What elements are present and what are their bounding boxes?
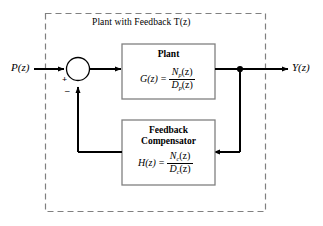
input-label: P(z) [11,62,29,73]
plant-denominator: Dp(z) [169,80,194,92]
plant-lhs: G(z) [140,74,158,84]
summing-junction-plus-sign: + [62,75,67,84]
compensator-numerator: Nc(z) [168,151,193,163]
plant-equals: = [161,74,167,84]
diagram-graphics [0,0,323,226]
compensator-denominator: Dc(z) [167,164,192,176]
compensator-lhs: H(z) [138,158,156,168]
plant-transfer-function: G(z) = Np(z) Dp(z) [140,67,195,91]
compensator-equals: = [159,158,165,168]
compensator-transfer-function: H(z) = Nc(z) Dc(z) [138,151,193,175]
compensator-fraction: Nc(z) Dc(z) [167,151,192,175]
plant-numerator: Np(z) [170,67,195,79]
summing-junction [67,58,90,81]
compensator-block-title-line2: Compensator [122,137,215,147]
output-label: Y(z) [292,62,310,73]
plant-fraction: Np(z) Dp(z) [169,67,194,91]
compensator-block-title-line1: Feedback [122,126,215,136]
plant-block-title: Plant [122,50,215,60]
block-diagram-figure: Plant with Feedback T(z) P(z) Y(z) + – P… [0,0,323,226]
summing-junction-minus-sign: – [65,86,70,95]
group-title: Plant with Feedback T(z) [92,18,191,28]
